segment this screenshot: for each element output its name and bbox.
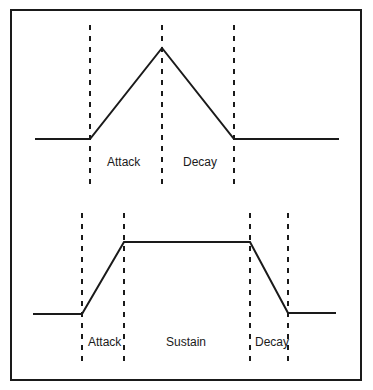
bottom-label-sustain: Sustain [166,335,206,349]
top-label-attack: Attack [107,155,141,169]
envelope-diagram: Attack Decay Attack Sustain Decay [0,0,373,390]
top-envelope-curve [35,48,339,139]
top-envelope-panel: Attack Decay [35,25,339,190]
bottom-label-decay: Decay [255,335,289,349]
top-label-decay: Decay [183,155,217,169]
bottom-envelope-panel: Attack Sustain Decay [33,213,336,366]
bottom-label-attack: Attack [88,335,122,349]
bottom-envelope-curve [33,242,336,314]
